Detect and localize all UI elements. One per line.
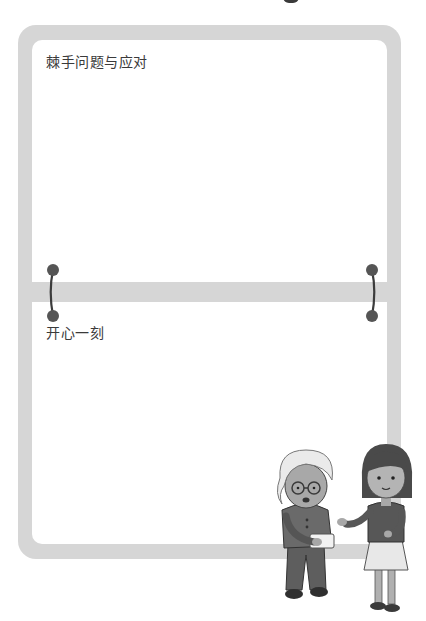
cropped-heading-glyph bbox=[283, 0, 299, 3]
worksheet-page: 棘手问题与应对 开心一刻 bbox=[0, 0, 426, 621]
grandma-and-girl-illustration bbox=[262, 420, 426, 620]
binder-ring-icon bbox=[36, 262, 70, 322]
section-title: 开心一刻 bbox=[46, 322, 104, 342]
section-panel-tricky-issues: 棘手问题与应对 bbox=[32, 40, 387, 282]
section-title: 棘手问题与应对 bbox=[46, 51, 148, 71]
binder-ring-icon bbox=[355, 262, 389, 322]
girl-figure bbox=[337, 444, 412, 612]
grandma-figure bbox=[277, 450, 334, 599]
